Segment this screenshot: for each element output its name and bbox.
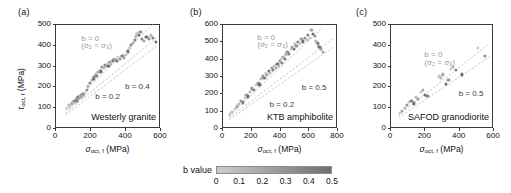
y-tick-label: 500 (360, 19, 386, 28)
y-tick-mark (53, 66, 56, 67)
x-tick-label: 600 (477, 131, 509, 140)
y-tick-label: 100 (25, 102, 51, 111)
x-tick-mark (160, 128, 161, 131)
y-tick-mark (388, 86, 391, 87)
x-tick-mark (251, 128, 252, 131)
figure-root: (a)01002003004005000200400600σoct, f (MP… (0, 0, 511, 193)
y-tick-label: 400 (192, 54, 218, 63)
y-tick-mark (220, 93, 223, 94)
y-tick-mark (388, 24, 391, 25)
y-tick-label: 300 (360, 61, 386, 70)
y-tick-mark (220, 41, 223, 42)
y-tick-mark (220, 76, 223, 77)
x-axis-title-1: σoct, f (MPa) (240, 144, 320, 154)
x-tick-label: 0 (206, 131, 238, 140)
y-tick-mark (53, 45, 56, 46)
x-tick-label: 0 (374, 131, 406, 140)
x-tick-label: 400 (109, 131, 141, 140)
x-tick-mark (55, 128, 56, 131)
annotation-label: b = 0.2 (269, 100, 294, 109)
x-tick-mark (424, 128, 425, 131)
x-tick-label: 0 (39, 131, 71, 140)
colorbar-tick-label: 0.5 (318, 176, 346, 186)
y-tick-label: 200 (192, 88, 218, 97)
y-tick-label: 400 (360, 40, 386, 49)
annotation-label: (σ₂ = σ₃) (81, 41, 112, 50)
y-axis-title-0: τoct, f (MPa) (16, 68, 26, 110)
x-tick-label: 200 (408, 131, 440, 140)
y-tick-label: 600 (192, 19, 218, 28)
x-tick-label: 800 (321, 131, 353, 140)
panel-label-2: (c) (356, 7, 367, 17)
y-tick-label: 400 (25, 40, 51, 49)
rock-name-1: KTB amphibolite (226, 112, 333, 122)
x-tick-mark (280, 128, 281, 131)
y-tick-label: 100 (360, 102, 386, 111)
panel-label-0: (a) (18, 7, 30, 17)
x-tick-mark (222, 128, 223, 131)
annotation-label: (σ₂ = σ₃) (424, 58, 455, 67)
y-tick-mark (220, 59, 223, 60)
y-tick-label: 100 (192, 106, 218, 115)
y-tick-mark (53, 107, 56, 108)
y-tick-mark (388, 66, 391, 67)
x-tick-label: 200 (74, 131, 106, 140)
y-tick-label: 300 (192, 71, 218, 80)
annotation-label: b = 0.2 (95, 92, 120, 101)
y-tick-mark (220, 24, 223, 25)
colorbar-title: b value (183, 165, 212, 175)
x-tick-mark (90, 128, 91, 131)
panel-label-1: (b) (190, 7, 202, 17)
x-tick-label: 600 (144, 131, 176, 140)
y-tick-label: 500 (192, 36, 218, 45)
x-tick-mark (125, 128, 126, 131)
x-axis-title-0: σoct, f (MPa) (68, 144, 148, 154)
y-tick-mark (53, 24, 56, 25)
colorbar-gradient (216, 166, 332, 174)
x-tick-label: 400 (264, 131, 296, 140)
x-tick-mark (390, 128, 391, 131)
x-tick-mark (459, 128, 460, 131)
y-tick-label: 500 (25, 19, 51, 28)
y-tick-label: 200 (25, 81, 51, 90)
annotation-label: (σ₂ = σ₃) (257, 40, 288, 49)
annotation-label: b = 0.5 (302, 83, 327, 92)
x-tick-label: 600 (292, 131, 324, 140)
x-tick-mark (493, 128, 494, 131)
y-tick-mark (220, 111, 223, 112)
y-tick-mark (53, 86, 56, 87)
y-tick-label: 200 (360, 81, 386, 90)
annotation-label: b = 0.5 (459, 89, 484, 98)
y-tick-mark (388, 45, 391, 46)
rock-name-0: Westerly granite (59, 112, 156, 122)
rock-name-2: SAFOD granodiorite (394, 112, 489, 122)
x-tick-label: 400 (443, 131, 475, 140)
annotation-label: b = 0.4 (125, 82, 150, 91)
x-axis-title-2: σoct, f (MPa) (402, 144, 482, 154)
x-tick-mark (308, 128, 309, 131)
x-tick-label: 200 (235, 131, 267, 140)
x-tick-mark (337, 128, 338, 131)
y-tick-mark (388, 107, 391, 108)
y-tick-label: 300 (25, 61, 51, 70)
